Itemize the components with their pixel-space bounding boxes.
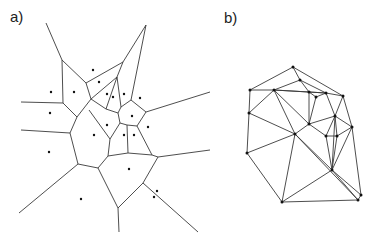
voronoi-site [73,91,75,93]
voronoi-site [48,151,50,153]
voronoi-site [98,81,100,83]
voronoi-site [123,93,125,95]
delaunay-point [325,92,328,95]
voronoi-site [131,115,133,117]
diagram-canvas [0,0,372,244]
delaunay-point [331,169,334,172]
voronoi-edge [118,208,119,232]
delaunay-point [315,96,318,99]
voronoi-site [147,126,149,128]
delaunay-edge [282,170,332,202]
voronoi-edge [98,156,108,168]
delaunay-edge [247,134,295,153]
voronoi-edge [127,125,128,153]
voronoi-edge [110,123,120,139]
delaunay-edge [249,90,250,113]
voronoi-edge [77,99,91,117]
voronoi-edge [46,23,62,60]
delaunay-edge [274,80,300,90]
delaunay-point [334,115,337,118]
delaunay-point [249,89,252,92]
voronoi-edge [21,130,70,133]
voronoi-site [139,97,141,99]
delaunay-point [292,66,295,69]
voronoi-site [106,124,108,126]
voronoi-edge [137,112,146,126]
delaunay-point [360,194,363,197]
delaunay-point [357,199,360,202]
delaunay-edge [309,97,316,124]
voronoi-edge [21,102,63,103]
voronoi-edge [117,62,123,77]
delaunay-edge [274,90,295,134]
voronoi-site [49,112,51,114]
delaunay-point [273,89,276,92]
voronoi-edge [86,83,91,99]
voronoi-site [133,134,135,136]
voronoi-edge [143,183,198,232]
voronoi-site [93,134,95,136]
voronoi-edge [117,77,121,107]
delaunay-point [308,123,311,126]
voronoi-edge [19,164,78,213]
voronoi-edge [118,183,143,208]
voronoi-site [50,91,52,93]
voronoi-edge [128,153,152,155]
delaunay-edge [326,93,335,116]
delaunay-edge [282,200,358,202]
voronoi-edge [137,126,152,155]
voronoi-edge [158,150,210,157]
voronoi-edge [131,100,146,112]
voronoi-site [106,93,108,95]
delaunay-edge [335,116,337,136]
delaunay-edge [282,134,295,202]
voronoi-edge [63,103,77,117]
delaunay-point [342,95,345,98]
voronoi-edge [108,139,110,156]
delaunay-edge [352,127,361,195]
voronoi-edge [91,99,106,109]
delaunay-point [351,126,354,129]
voronoi-edge [70,117,77,133]
voronoi-edge [143,157,158,183]
delaunay-point [325,135,328,138]
voronoi-site [80,198,82,200]
delaunay-edge [250,67,293,90]
voronoi-diagram-edges [19,23,210,232]
voronoi-edge [121,100,131,107]
delaunay-point [294,133,297,136]
delaunay-edge [332,170,361,195]
voronoi-edge [118,107,121,113]
delaunay-edge [309,124,326,136]
voronoi-edge [127,125,137,126]
delaunay-point [299,79,302,82]
delaunay-triangulation-edges [247,67,361,202]
voronoi-site [92,69,94,71]
voronoi-edge [98,168,118,208]
voronoi-edge [108,153,128,156]
delaunay-edge [249,113,295,134]
voronoi-site [153,196,155,198]
delaunay-edge [300,80,326,93]
delaunay-edge [249,90,274,113]
voronoi-edge [78,164,98,168]
delaunay-edge [335,96,343,116]
delaunay-edge [316,93,326,97]
delaunay-edge [295,134,358,200]
delaunay-point [281,201,284,204]
delaunay-point [336,135,339,138]
delaunay-triangulation-points [246,66,363,204]
delaunay-edge [247,113,249,153]
voronoi-site [112,96,114,98]
voronoi-edge [70,133,78,164]
voronoi-edge [152,155,158,157]
delaunay-edge [274,90,309,124]
delaunay-edge [247,153,282,202]
voronoi-site [156,190,158,192]
delaunay-point [308,91,311,94]
voronoi-edge [106,109,118,113]
voronoi-edge [146,92,210,112]
delaunay-point [248,112,251,115]
voronoi-edge [62,60,86,83]
voronoi-site [123,134,125,136]
